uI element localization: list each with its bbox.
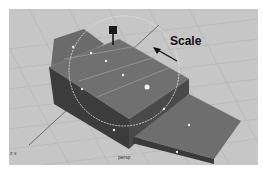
scene[interactable] bbox=[9, 9, 258, 165]
axis-indicator-icon: z x bbox=[10, 150, 16, 156]
3d-viewport[interactable] bbox=[9, 9, 258, 165]
pivot-icon[interactable] bbox=[145, 85, 150, 90]
scale-handle-cube-icon[interactable] bbox=[109, 26, 117, 34]
camera-label: persp bbox=[118, 154, 131, 160]
scale-annotation: Scale bbox=[170, 34, 201, 48]
